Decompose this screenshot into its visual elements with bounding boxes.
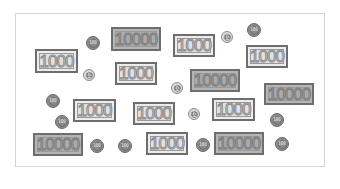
banknote-1000[interactable]: 1000 [173,34,215,57]
coin-value: 100 [89,41,97,46]
coin-100[interactable]: 100 [118,139,132,153]
banknote-value: 1000 [78,102,112,119]
coin-value: 10 [191,111,198,117]
banknote-1000[interactable]: 1000 [115,62,157,85]
coin-value: 10 [86,72,93,78]
coin-value: 100 [273,118,281,123]
banknote-value: 1000 [150,135,184,152]
coin-10[interactable]: 10 [221,31,233,43]
banknote-value: 10000 [37,136,79,153]
coin-10[interactable]: 10 [83,69,95,81]
coin-100[interactable]: 100 [270,113,284,127]
banknote-1000[interactable]: 1000 [246,45,288,68]
banknote-1000[interactable]: 1000 [212,98,255,121]
banknote-value: 10000 [115,31,157,48]
banknote-10000[interactable]: 10000 [33,133,83,156]
banknote-value: 1000 [119,65,153,82]
banknote-value: 10000 [218,135,260,152]
banknote-value: 10000 [268,86,310,103]
coin-value: 100 [199,143,207,148]
banknote-value: 1000 [250,48,284,65]
banknote-1000[interactable]: 1000 [146,132,188,155]
coin-100[interactable]: 100 [275,137,289,151]
coin-100[interactable]: 100 [90,139,104,153]
coin-value: 100 [278,142,286,147]
banknote-value: 10000 [194,72,236,89]
coin-value: 100 [250,28,258,33]
banknote-value: 1000 [40,53,74,70]
banknote-value: 1000 [217,101,251,118]
banknote-value: 1000 [177,37,211,54]
banknote-1000[interactable]: 1000 [73,99,116,122]
coin-value: 100 [49,99,57,104]
coin-100[interactable]: 100 [247,23,261,37]
coin-value: 10 [174,85,181,91]
banknote-1000[interactable]: 1000 [35,49,78,73]
banknote-10000[interactable]: 10000 [264,83,314,105]
coin-100[interactable]: 100 [196,138,210,152]
coin-10[interactable]: 10 [171,82,183,94]
coin-value: 100 [58,120,66,125]
coin-10[interactable]: 10 [188,108,200,120]
banknote-value: 1000 [137,105,171,122]
coin-value: 100 [93,144,101,149]
banknote-10000[interactable]: 10000 [111,27,161,51]
coin-value: 10 [224,34,231,40]
banknote-1000[interactable]: 1000 [133,102,175,125]
coin-100[interactable]: 100 [86,36,100,50]
coin-value: 100 [121,144,129,149]
banknote-10000[interactable]: 10000 [190,69,240,92]
coin-100[interactable]: 100 [46,94,60,108]
coin-100[interactable]: 100 [55,115,69,129]
banknote-10000[interactable]: 10000 [214,132,264,155]
